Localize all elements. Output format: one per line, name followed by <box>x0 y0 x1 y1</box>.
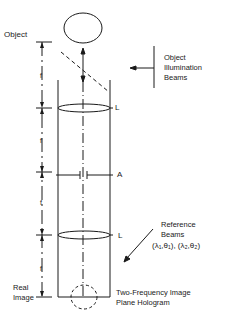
arrow-down-icon <box>81 76 85 82</box>
illumination-label-2: Illumination <box>164 63 202 73</box>
reference-label-1: Reference <box>161 220 196 230</box>
hologram-label-1: Two-Frequency Image <box>116 288 191 298</box>
reference-arrow <box>127 229 153 258</box>
illumination-label-3: Beams <box>164 73 187 83</box>
arrow-up-icon <box>81 48 85 54</box>
real-image-label-1: Real <box>13 283 28 293</box>
object-label: Object <box>4 30 27 40</box>
focal-label-1: f <box>40 71 42 81</box>
focal-label-3: f <box>40 198 42 208</box>
beam-splitter-dashed <box>61 52 109 92</box>
lens-bottom-label: L <box>118 231 122 241</box>
optical-diagram <box>0 0 227 318</box>
aperture-label: A <box>117 170 122 180</box>
hologram-label-2: Plane Hologram <box>116 298 170 308</box>
focal-label-2: f <box>40 136 42 146</box>
lens-bottom <box>58 231 110 239</box>
lens-top-label: L <box>115 103 119 113</box>
real-image-label-2: Image <box>13 293 34 303</box>
arrow-down-left-icon <box>124 256 130 262</box>
illumination-label-1: Object <box>164 53 186 63</box>
lens-top <box>58 104 110 112</box>
object-ellipse <box>64 13 102 43</box>
reference-params: (λ₁,θ₁), (λ₂,θ₂) <box>152 241 200 251</box>
arrow-left-icon <box>130 66 136 70</box>
focal-label-4: f <box>40 264 42 274</box>
reference-label-2: Beams <box>161 230 184 240</box>
